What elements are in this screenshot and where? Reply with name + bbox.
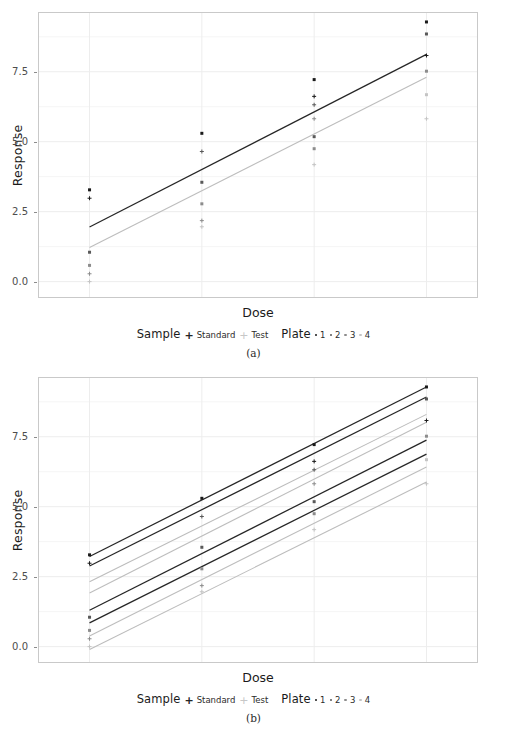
plot-area-a — [38, 12, 478, 298]
standard-plus-icon: + — [184, 695, 193, 706]
data-point-test — [88, 637, 92, 641]
y-tick-label: 5.0 — [0, 136, 28, 147]
data-point-test — [200, 219, 204, 223]
data-point-test — [312, 103, 316, 107]
legend-item-standard[interactable]: Standard — [197, 330, 236, 340]
legend-a: Sample+Standard+TestPlate1234 — [0, 327, 507, 341]
standard-plus-icon: + — [184, 330, 193, 341]
legend-b: Sample+Standard+TestPlate1234 — [0, 692, 507, 706]
x-axis-label-a: Dose — [38, 305, 478, 320]
data-point-test — [88, 645, 92, 649]
fit-line — [90, 397, 427, 566]
fit-line — [90, 467, 427, 636]
data-point-standard — [88, 629, 91, 632]
plate-2-dot-icon — [330, 334, 333, 337]
data-point-test — [200, 515, 204, 519]
data-point-standard — [313, 500, 316, 503]
data-point-standard — [88, 553, 91, 556]
panel-caption-a: (a) — [0, 347, 507, 359]
legend-item-plate-4[interactable]: 4 — [365, 695, 370, 705]
data-point-standard — [425, 385, 428, 388]
plot-canvas-a — [39, 13, 477, 297]
data-point-test — [424, 419, 428, 423]
plot-area-b — [38, 377, 478, 663]
legend-item-test[interactable]: Test — [252, 330, 269, 340]
plate-2-dot-icon — [330, 699, 333, 702]
legend-item-plate-2[interactable]: 2 — [335, 695, 340, 705]
data-point-standard — [313, 78, 316, 81]
plate-3-dot-icon — [344, 334, 347, 337]
legend-item-plate-1[interactable]: 1 — [320, 330, 325, 340]
fit-line — [90, 454, 427, 623]
data-point-test — [200, 584, 204, 588]
data-point-standard — [425, 70, 428, 73]
data-point-standard — [425, 20, 428, 23]
data-point-standard — [88, 251, 91, 254]
data-point-test — [88, 272, 92, 276]
data-point-standard — [425, 397, 428, 400]
panel-b: Response 0.0 2.5 5.0 7.5 Dose Sample+Sta… — [0, 365, 507, 729]
legend-item-plate-1[interactable]: 1 — [320, 695, 325, 705]
data-point-test — [312, 528, 316, 532]
legend-item-plate-3[interactable]: 3 — [350, 695, 355, 705]
data-point-standard — [313, 443, 316, 446]
y-tick-mark — [34, 282, 37, 283]
y-tick-mark — [34, 577, 37, 578]
y-tick-mark — [34, 647, 37, 648]
data-point-standard — [200, 181, 203, 184]
data-point-test — [88, 196, 92, 200]
data-point-test — [88, 280, 92, 284]
legend-title-plate: Plate — [281, 692, 310, 706]
data-point-test — [200, 150, 204, 154]
y-tick-label: 2.5 — [0, 206, 28, 217]
fit-line — [90, 414, 427, 581]
plot-canvas-b — [39, 378, 477, 662]
panel-a: Response 0.0 2.5 5.0 7.5 Dose Sample+Sta… — [0, 0, 507, 364]
data-point-test — [312, 482, 316, 486]
data-point-test — [424, 117, 428, 121]
fit-line — [90, 77, 427, 247]
y-axis-label-b: Response — [10, 486, 25, 556]
test-plus-icon: + — [239, 330, 248, 341]
legend-item-standard[interactable]: Standard — [197, 695, 236, 705]
legend-title-sample: Sample — [137, 692, 181, 706]
figure-root: Response 0.0 2.5 5.0 7.5 Dose Sample+Sta… — [0, 0, 507, 729]
data-point-standard — [88, 616, 91, 619]
data-point-standard — [425, 458, 428, 461]
fit-line — [90, 54, 427, 227]
fit-line — [90, 440, 427, 610]
data-point-standard — [313, 512, 316, 515]
plate-4-dot-icon — [359, 699, 362, 702]
y-tick-label: 0.0 — [0, 276, 28, 287]
y-tick-mark — [34, 72, 37, 73]
plate-1-dot-icon — [315, 699, 318, 702]
data-point-standard — [425, 93, 428, 96]
data-point-standard — [313, 147, 316, 150]
y-tick-label: 5.0 — [0, 501, 28, 512]
y-tick-label: 7.5 — [0, 431, 28, 442]
data-point-standard — [200, 567, 203, 570]
test-plus-icon: + — [239, 695, 248, 706]
legend-item-plate-4[interactable]: 4 — [365, 330, 370, 340]
y-axis-label-a: Response — [10, 121, 25, 191]
y-tick-label: 2.5 — [0, 571, 28, 582]
y-tick-mark — [34, 507, 37, 508]
data-point-standard — [200, 202, 203, 205]
data-point-standard — [425, 435, 428, 438]
y-tick-mark — [34, 142, 37, 143]
panel-caption-b: (b) — [0, 712, 507, 724]
data-point-standard — [313, 135, 316, 138]
legend-item-test[interactable]: Test — [252, 695, 269, 705]
legend-title-sample: Sample — [137, 327, 181, 341]
y-tick-label: 0.0 — [0, 641, 28, 652]
legend-item-plate-3[interactable]: 3 — [350, 330, 355, 340]
legend-title-plate: Plate — [281, 327, 310, 341]
data-point-test — [200, 225, 204, 229]
data-point-test — [312, 117, 316, 121]
data-point-test — [312, 163, 316, 167]
plate-1-dot-icon — [315, 334, 318, 337]
x-axis-label-b: Dose — [38, 670, 478, 685]
data-point-test — [424, 54, 428, 58]
legend-item-plate-2[interactable]: 2 — [335, 330, 340, 340]
data-point-standard — [425, 32, 428, 35]
